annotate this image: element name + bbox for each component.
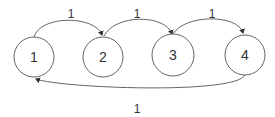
edge-label-1-2: 1 — [68, 7, 75, 21]
node-label: 1 — [30, 49, 38, 65]
edge-label-2-3: 1 — [134, 7, 141, 21]
node-label: 3 — [169, 47, 177, 63]
edge-label-3-4: 1 — [209, 7, 216, 21]
node-4: 4 — [225, 35, 265, 75]
edge-1-2 — [34, 20, 102, 37]
edge-2-3 — [104, 19, 172, 36]
node-2: 2 — [83, 37, 123, 77]
node-label: 2 — [99, 49, 107, 65]
graph-diagram: 1 1 1 1 1 2 3 4 — [0, 0, 275, 117]
edge-label-4-1: 1 — [134, 102, 141, 116]
node-1: 1 — [14, 37, 54, 77]
node-3: 3 — [152, 34, 194, 76]
edge-3-4 — [173, 19, 243, 34]
edge-4-1 — [36, 75, 245, 88]
node-label: 4 — [241, 47, 249, 63]
